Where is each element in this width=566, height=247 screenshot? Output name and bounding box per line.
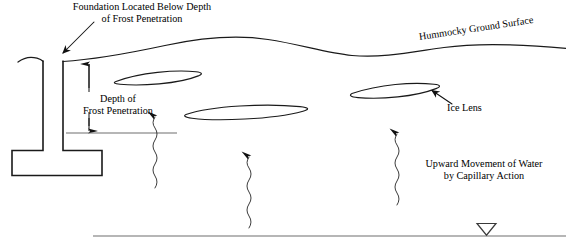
capillary-line1: Upward Movement of Water: [426, 158, 543, 169]
ice-lens-upper-left: [114, 71, 201, 85]
foundation-note-line1: Foundation Located Below Depth: [73, 1, 211, 12]
frost-depth-line1: Depth of: [100, 93, 136, 104]
capillary-action-label: Upward Movement of Waterby Capillary Act…: [409, 158, 559, 182]
ice-lens-lower-left: [185, 105, 308, 120]
ground-surface-main: [63, 37, 566, 61]
capillary-wavy-arrow-right: [395, 134, 399, 205]
foundation-note-label: Foundation Located Below Depthof Frost P…: [56, 1, 228, 25]
diagram-canvas: [0, 0, 566, 247]
ground-surface-group: [18, 37, 566, 62]
foundation-note-leader: [63, 22, 94, 53]
capillary-arrows-group: [153, 117, 399, 228]
water-table-triangle-icon: [477, 224, 496, 236]
foundation-note-line2: of Frost Penetration: [102, 13, 183, 24]
frost-depth-line2: Frost Penetration: [83, 105, 153, 116]
ice-lens-label: Ice Lens: [447, 102, 482, 114]
capillary-wavy-arrow-middle: [247, 157, 251, 228]
capillary-wavy-arrow-left: [153, 117, 157, 188]
capillary-line2: by Capillary Action: [444, 170, 524, 181]
frost-penetration-diagram: Foundation Located Below Depthof Frost P…: [0, 0, 566, 247]
water-table-group: [93, 224, 566, 237]
ice-lens-right: [350, 83, 439, 98]
frost-depth-label: Depth ofFrost Penetration: [58, 93, 178, 117]
ground-surface-left-segment: [18, 57, 43, 62]
